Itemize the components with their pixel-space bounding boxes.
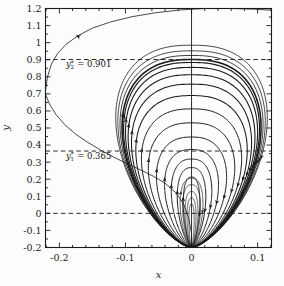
- ytick-label: -0.2: [23, 242, 41, 253]
- ytick-label: 0.3: [26, 157, 41, 168]
- ytick-label: 0.6: [26, 105, 41, 116]
- ytick-label: 1.1: [26, 20, 41, 31]
- ytick-label: -0.1: [23, 225, 41, 236]
- ytick-label: 1.2: [26, 3, 41, 14]
- ytick-label: 0.5: [26, 122, 41, 133]
- y-axis-label: y: [0, 125, 11, 132]
- ytick-label: 0.2: [26, 174, 41, 185]
- annotation-1: y*2 = 0.901: [65, 59, 111, 71]
- ytick-label: 0.7: [26, 88, 41, 99]
- ytick-label: 0.1: [26, 191, 41, 202]
- xtick-label: 0: [189, 252, 195, 263]
- plot-canvas: -0.2-0.100.1-0.2-0.100.10.20.30.40.50.60…: [0, 0, 284, 286]
- ytick-label: 0.4: [26, 139, 41, 150]
- xtick-label: -0.2: [50, 252, 68, 263]
- xtick-label: 0.1: [250, 252, 265, 263]
- figure-background: [0, 0, 284, 286]
- x-axis-label: x: [156, 269, 162, 280]
- phase-portrait-figure: -0.2-0.100.1-0.2-0.100.10.20.30.40.50.60…: [0, 0, 284, 286]
- ytick-label: 0.8: [26, 71, 41, 82]
- ytick-label: 0: [35, 208, 41, 219]
- ytick-label: 1: [35, 37, 41, 48]
- xtick-label: -0.1: [116, 252, 134, 263]
- ytick-label: 0.9: [26, 54, 41, 65]
- annotation-2: y*1 = 0.365: [65, 150, 111, 162]
